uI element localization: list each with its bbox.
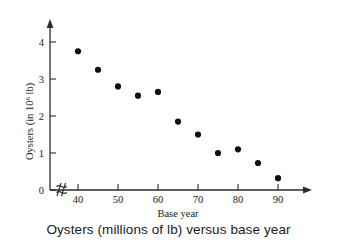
x-axis-arrowhead: [303, 187, 312, 194]
x-tick-label-80: 80: [233, 194, 244, 205]
y-axis-arrowhead: [47, 19, 54, 28]
y-tick-label-3: 3: [39, 74, 44, 85]
data-point: [255, 160, 261, 166]
y-tick-label-4: 4: [39, 37, 45, 48]
x-axis-title: Base year: [157, 208, 199, 219]
x-axis-tick-labels: 40 50 60 70 80 90: [73, 194, 284, 205]
svg-text:Oysters (in 106 lb): Oysters (in 106 lb): [24, 82, 37, 160]
x-axis-ticks: [78, 184, 278, 190]
data-point: [175, 118, 181, 124]
y-tick-label-1: 1: [39, 148, 44, 159]
data-point: [215, 150, 221, 156]
y-axis-ticks: [50, 42, 56, 190]
data-point: [195, 131, 201, 137]
data-point: [115, 83, 121, 89]
x-tick-label-60: 60: [153, 194, 164, 205]
y-tick-label-2: 2: [39, 111, 44, 122]
data-point-series: [75, 48, 281, 181]
data-point: [135, 93, 141, 99]
figure-caption: Oysters (millions of lb) versus base yea…: [0, 222, 337, 237]
scatter-plot: Oysters (in 106 lb) 0 1 2 3: [0, 0, 337, 251]
y-axis-tick-labels: 0 1 2 3 4: [39, 37, 45, 196]
data-point: [235, 146, 241, 152]
x-tick-label-90: 90: [273, 194, 284, 205]
data-point: [95, 67, 101, 73]
x-tick-label-70: 70: [193, 194, 204, 205]
data-point: [275, 175, 281, 181]
y-axis-title: Oysters (in 106 lb): [24, 82, 37, 160]
y-axis-title-tail: lb): [24, 82, 36, 97]
x-tick-label-50: 50: [113, 194, 124, 205]
y-axis-title-base: Oysters (in 10: [24, 101, 36, 161]
data-point: [75, 48, 81, 54]
figure-container: Oysters (in 106 lb) 0 1 2 3: [0, 0, 337, 251]
y-tick-label-0: 0: [39, 185, 44, 196]
data-point: [155, 89, 161, 95]
x-tick-label-40: 40: [73, 194, 84, 205]
